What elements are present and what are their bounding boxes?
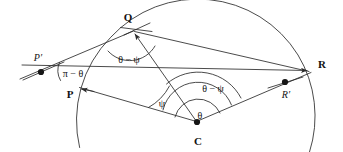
point-dot-pprime [38,69,44,75]
angle-label-pi-minus-theta: π − θ [63,69,83,79]
angle-arc-pi-minus-theta [58,63,61,81]
angle-label-theta-minus-psi-at-c: θ − ψ [202,84,224,94]
point-dot-rprime [282,79,288,85]
main-circle-arc [76,0,315,152]
diagram-canvas: P′ P Q C R′ R π − θ θ − ψ ψ θ − ψ θ [0,0,343,152]
point-label-p-prime: P′ [34,53,42,63]
chord-q-to-r [135,32,310,72]
point-label-r: R [318,59,326,70]
point-label-p: P [67,89,74,100]
geometry-figure [0,0,343,152]
angle-label-theta-at-c: θ [198,111,203,121]
arrow-at-p [82,89,95,92]
point-label-q: Q [124,12,133,23]
radius-c-to-p [80,88,197,122]
tangent-tick-at-q-2 [124,23,150,35]
angle-label-theta-minus-psi-at-q: θ − ψ [118,55,140,65]
point-label-c: C [194,136,202,147]
angle-label-psi-at-c: ψ [159,99,165,109]
point-label-r-prime: R′ [282,90,290,100]
radius-c-to-q [135,34,197,122]
